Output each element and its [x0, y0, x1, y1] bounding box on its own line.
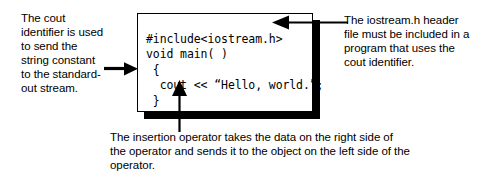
bottom-annotation-text: The insertion operator takes the data on… — [110, 131, 410, 173]
left-annotation-text: The cout identifier is used to send the … — [21, 12, 107, 95]
arrow-left-icon — [272, 12, 348, 34]
right-annotation-text: The iostream.h header file must be inclu… — [344, 14, 476, 70]
figure-container: The cout identifier is used to send the … — [0, 0, 477, 184]
arrow-right-icon — [104, 58, 140, 80]
arrow-up-icon — [168, 80, 192, 132]
